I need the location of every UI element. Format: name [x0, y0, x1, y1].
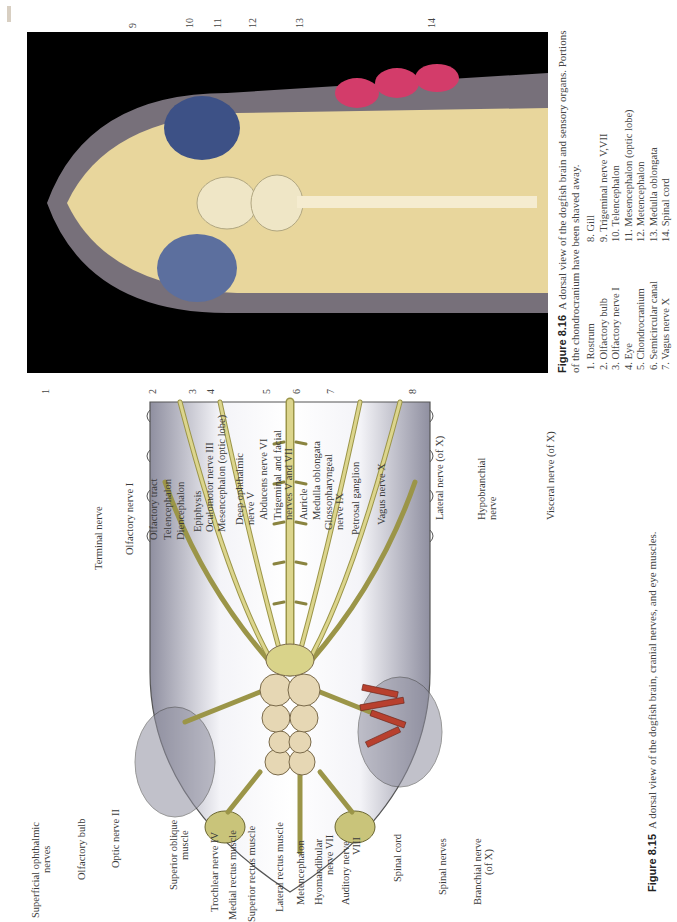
legend-item: 2. Olfactory bulb	[598, 281, 611, 370]
label-mesencephalon: Mesencephalon (optic lobe)	[216, 415, 227, 532]
label-olfactory-nerve-i: Olfactory nerve I	[124, 483, 135, 555]
callout-6: 6	[291, 389, 302, 394]
label-superior-rectus: Superior rectus muscle	[246, 826, 257, 922]
legend-item: 10. Telencephalon	[610, 109, 623, 242]
figure-8-16-photo	[27, 32, 548, 373]
figure-8-16-legend-col1: 1. Rostrum 2. Olfactory bulb 3. Olfactor…	[585, 281, 673, 370]
legend-item: 7. Vagus nerve X	[660, 281, 673, 370]
figure-8-15-caption: Figure 8.15A dorsal view of the dogfish …	[646, 392, 659, 892]
legend-item: 13. Medulla oblongata	[648, 109, 661, 242]
photo-callouts-right: 9 10 11 12 13 14	[0, 6, 560, 28]
label-auricle: Auricle	[298, 489, 309, 521]
label-superficial-ophthalmic: Superficial ophthalmicnerves	[30, 822, 52, 918]
figure-8-16-label: Figure 8.16	[556, 315, 568, 373]
label-hypobranchial-nerve: Hypobranchialnerve	[476, 458, 498, 520]
callout-11: 11	[212, 18, 223, 28]
label-petrosal-ganglion: Petrosal ganglion	[350, 462, 361, 535]
label-spinal-nerves: Spinal nerves	[437, 838, 448, 895]
label-vagus-nerve-x: Vagus nerve X	[376, 463, 387, 525]
label-superior-oblique-muscle: Superior obliquemuscle	[168, 820, 190, 890]
callout-2: 2	[147, 389, 158, 394]
callout-5: 5	[261, 389, 272, 394]
label-visceral-nerve: Visceral nerve (of X)	[545, 431, 556, 520]
legend-item: 3. Olfactory nerve I	[610, 281, 623, 370]
legend-item: 1. Rostrum	[585, 281, 598, 370]
callout-13: 13	[294, 18, 305, 28]
photo-callouts-left: 1 2 3 4 5 6 7 8	[0, 378, 560, 394]
legend-item: 12. Metencephalon	[635, 109, 648, 242]
legend-item: 6. Semicircular canal	[648, 281, 661, 370]
figure-8-15-label: Figure 8.15	[646, 834, 658, 892]
label-auditory-nerve: Auditory nerveVIII	[340, 837, 362, 905]
label-lateral-nerve: Lateral nerve (of X)	[434, 436, 445, 520]
label-olfactory-tract: Olfactory tract	[148, 478, 159, 540]
label-hyomandibular-nerve: Hyomandibularnerve VII	[313, 835, 335, 905]
label-medial-rectus: Medial rectus muscle	[227, 830, 238, 920]
label-deep-ophthalmic-nerve: Deep ophthalmicnerve V	[234, 453, 256, 525]
label-medulla-oblongata: Medulla oblongata	[311, 441, 322, 520]
callout-7: 7	[325, 389, 336, 394]
legend-item: 9. Trigeminal nerve V,VII	[598, 109, 611, 242]
callout-9: 9	[127, 23, 138, 28]
label-optic-nerve-ii: Optic nerve II	[110, 809, 121, 868]
label-trochlear-nerve-iv: Trochlear nerve IV	[209, 832, 220, 912]
legend-item: 4. Eye	[623, 281, 636, 370]
callout-12: 12	[247, 18, 258, 28]
label-epiphysis: Epiphysis	[192, 491, 203, 532]
label-metencephalon: Metencephalon	[295, 840, 306, 905]
callout-3: 3	[187, 389, 198, 394]
callout-8: 8	[407, 389, 418, 394]
label-abducens-nerve-vi: Abducens nerve VI	[258, 439, 269, 520]
label-olfactory-bulb: Olfactory bulb	[76, 818, 87, 880]
legend-item: 5. Chondrocranium	[635, 281, 648, 370]
dogfish-dissection-photo	[27, 32, 548, 373]
legend-item: 14. Spinal cord	[660, 109, 673, 242]
label-telencephalon: Telencephalon	[162, 479, 173, 540]
legend-item: 8. Gill	[585, 109, 598, 242]
figure-8-16-legend-col2: 8. Gill 9. Trigeminal nerve V,VII 10. Te…	[585, 109, 673, 242]
label-lateral-rectus: Lateral rectus muscle	[274, 822, 285, 912]
label-diencephalon: Diencephalon	[175, 482, 186, 540]
label-terminal-nerve: Terminal nerve	[93, 506, 104, 570]
label-glossopharyngeal: Glossopharyngealnerve IX	[323, 454, 345, 530]
legend-item: 11. Mesencephalon (optic lobe)	[623, 109, 636, 242]
label-oculomotor-nerve-iii: Oculomotor nerve III	[204, 442, 215, 532]
label-trigeminal-facial: Trigeminal and facialnerves V and VII	[272, 430, 294, 520]
label-spinal-cord: Spinal cord	[392, 834, 403, 882]
callout-10: 10	[184, 18, 195, 28]
figure-8-15-caption-text: A dorsal view of the dogfish brain, cran…	[646, 531, 658, 829]
label-branchial-nerve: Branchial nerve(of X)	[472, 838, 494, 905]
callout-14: 14	[426, 18, 437, 28]
callout-4: 4	[205, 389, 216, 394]
callout-1: 1	[40, 389, 51, 394]
figure-8-16-caption: Figure 8.16A dorsal view of the dogfish …	[556, 28, 582, 373]
